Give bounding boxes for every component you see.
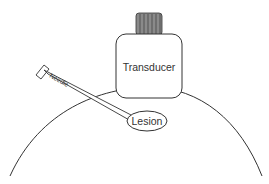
transducer-label: Transducer bbox=[123, 61, 176, 73]
needle-label: Needle bbox=[49, 72, 71, 88]
skin-surface-arc bbox=[10, 87, 262, 176]
lesion-label: Lesion bbox=[132, 115, 163, 127]
transducer-knob bbox=[136, 13, 162, 35]
ultrasound-guided-biopsy-diagram: Transducer Needle Lesion bbox=[0, 0, 269, 184]
